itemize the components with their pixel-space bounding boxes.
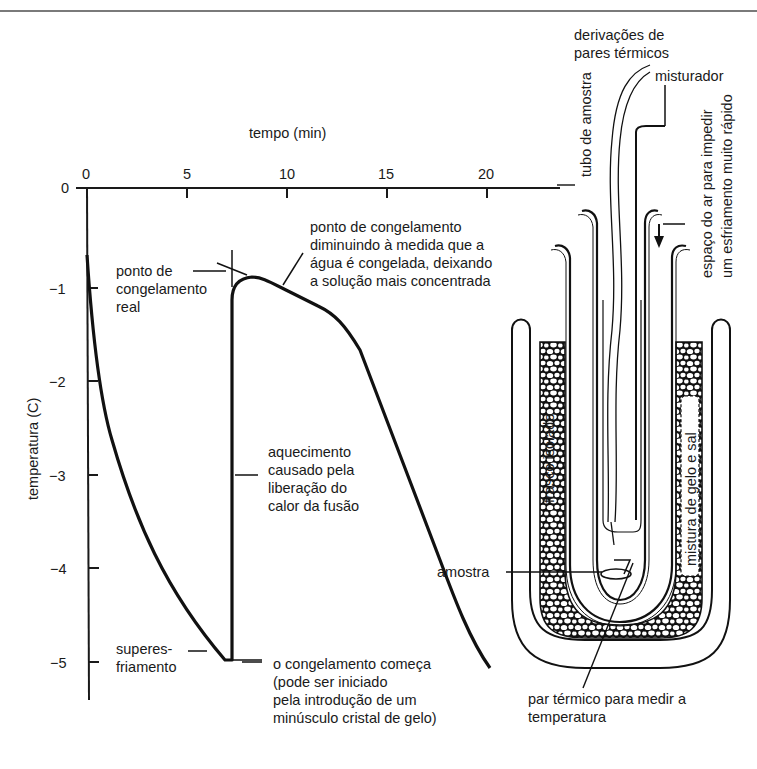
x-tick-5: 5	[183, 166, 191, 182]
y-tick-0: 0	[61, 180, 69, 196]
y-tick-minus5: −5	[50, 655, 67, 671]
x-axis-title: tempo (min)	[249, 124, 326, 142]
leader-fp-decreasing	[283, 253, 303, 285]
x-tick-20: 20	[478, 166, 494, 182]
label-air-space: espaço do ar para impedir um esfriamento…	[697, 94, 737, 278]
label-thermocouple: par térmico para medir a temperatura	[528, 690, 686, 726]
y-tick-minus4: −4	[50, 561, 67, 577]
label-sample-tube: tubo de amostra	[577, 72, 595, 177]
label-sample: amostra	[437, 563, 489, 581]
label-heating: aquecimento causado pela liberação do ca…	[268, 443, 359, 515]
y-tick-minus3: −3	[49, 468, 66, 484]
label-fp-decreasing: ponto de congelamento diminuindo à medid…	[310, 218, 492, 290]
y-tick-minus2: −2	[49, 374, 66, 390]
label-thermocouple-leads: derivações de pares térmicos	[574, 26, 669, 62]
label-freezing-starts: o congelamento começa (pode ser iniciado…	[273, 655, 437, 727]
x-tick-0: 0	[82, 166, 90, 182]
label-insulated-flask: frasco isolado	[540, 414, 558, 503]
y-tick-minus1: −1	[49, 281, 66, 297]
x-tick-15: 15	[378, 166, 394, 182]
cooling-curve-graph	[0, 0, 757, 769]
label-supercooling: superes- friamento	[116, 640, 176, 676]
label-stirrer: misturador	[655, 67, 724, 85]
x-tick-10: 10	[279, 166, 295, 182]
y-axis-title: temperatura (C)	[24, 398, 42, 500]
label-ice-salt-mix: mistura de gelo e sal	[682, 432, 700, 566]
x-axis	[76, 188, 560, 198]
label-real-fp: ponto de congelamento real	[116, 262, 207, 316]
